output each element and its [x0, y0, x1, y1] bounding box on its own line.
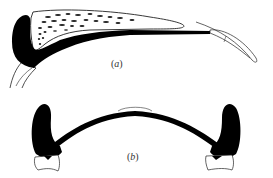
arch-band — [50, 111, 222, 150]
tail-divider — [224, 36, 226, 42]
panel-b-label: (b) — [127, 151, 139, 163]
panel-b: (b) — [32, 104, 241, 171]
arch-outline — [118, 107, 152, 111]
right-blob — [210, 104, 241, 158]
anatomical-diagram: (a) (b) — [0, 0, 273, 178]
panel-a-label: (a) — [111, 58, 123, 70]
tail-outline — [196, 22, 257, 62]
panel-a: (a) — [10, 10, 257, 88]
left-blob — [32, 104, 62, 158]
